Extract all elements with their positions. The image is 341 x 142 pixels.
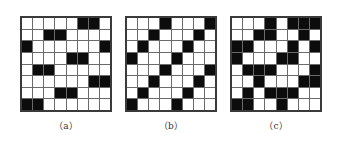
filled-cell [288,18,298,29]
empty-cell [288,99,298,110]
filled-cell [265,65,275,76]
empty-cell [138,76,148,87]
empty-cell [183,65,193,76]
empty-cell [232,65,242,76]
empty-cell [254,18,264,29]
filled-cell [243,65,253,76]
empty-cell [127,65,137,76]
empty-cell [44,76,54,87]
filled-cell [138,88,148,99]
filled-cell [100,76,110,87]
filled-cell [194,30,204,41]
filled-cell [183,88,193,99]
empty-cell [232,30,242,41]
empty-cell [33,41,43,52]
empty-cell [194,53,204,64]
empty-cell [243,18,253,29]
filled-cell [172,53,182,64]
empty-cell [78,65,88,76]
filled-cell [149,30,159,41]
grid-a [20,16,112,112]
filled-cell [172,99,182,110]
empty-cell [265,76,275,87]
filled-cell [310,41,320,52]
filled-cell [44,65,54,76]
empty-cell [265,41,275,52]
empty-cell [277,76,287,87]
empty-cell [183,76,193,87]
empty-cell [138,65,148,76]
panel-b: （b） [125,16,221,112]
filled-cell [160,18,170,29]
filled-cell [205,18,215,29]
empty-cell [183,30,193,41]
filled-cell [232,53,242,64]
empty-cell [100,53,110,64]
filled-cell [33,99,43,110]
empty-cell [172,30,182,41]
empty-cell [100,99,110,110]
empty-cell [232,18,242,29]
empty-cell [67,41,77,52]
empty-cell [138,30,148,41]
filled-cell [127,53,137,64]
filled-cell [127,99,137,110]
filled-cell [243,99,253,110]
empty-cell [160,53,170,64]
empty-cell [299,41,309,52]
empty-cell [127,41,137,52]
empty-cell [265,99,275,110]
empty-cell [149,41,159,52]
empty-cell [89,30,99,41]
empty-cell [299,99,309,110]
empty-cell [172,18,182,29]
panel-c: （c） [230,16,326,112]
empty-cell [160,30,170,41]
empty-cell [254,53,264,64]
filled-cell [205,65,215,76]
empty-cell [100,65,110,76]
filled-cell [100,41,110,52]
empty-cell [55,76,65,87]
empty-cell [277,18,287,29]
label-b: （b） [125,119,217,132]
filled-cell [44,30,54,41]
empty-cell [78,41,88,52]
filled-cell [22,99,32,110]
empty-cell [78,99,88,110]
empty-cell [78,88,88,99]
filled-cell [277,53,287,64]
empty-cell [194,41,204,52]
empty-cell [149,53,159,64]
empty-cell [100,88,110,99]
empty-cell [160,99,170,110]
empty-cell [138,53,148,64]
empty-cell [127,30,137,41]
label-a: （a） [20,119,112,132]
filled-cell [299,18,309,29]
empty-cell [310,53,320,64]
empty-cell [310,30,320,41]
empty-cell [149,65,159,76]
empty-cell [277,30,287,41]
label-c: （c） [230,119,322,132]
empty-cell [89,41,99,52]
empty-cell [67,30,77,41]
filled-cell [232,41,242,52]
empty-cell [172,41,182,52]
filled-cell [55,88,65,99]
filled-cell [78,53,88,64]
filled-cell [232,99,242,110]
filled-cell [265,30,275,41]
empty-cell [172,88,182,99]
empty-cell [277,65,287,76]
empty-cell [55,41,65,52]
empty-cell [33,18,43,29]
empty-cell [194,18,204,29]
empty-cell [127,76,137,87]
panel-a: （a） [20,16,116,112]
empty-cell [277,41,287,52]
filled-cell [194,76,204,87]
empty-cell [288,30,298,41]
filled-cell [67,88,77,99]
